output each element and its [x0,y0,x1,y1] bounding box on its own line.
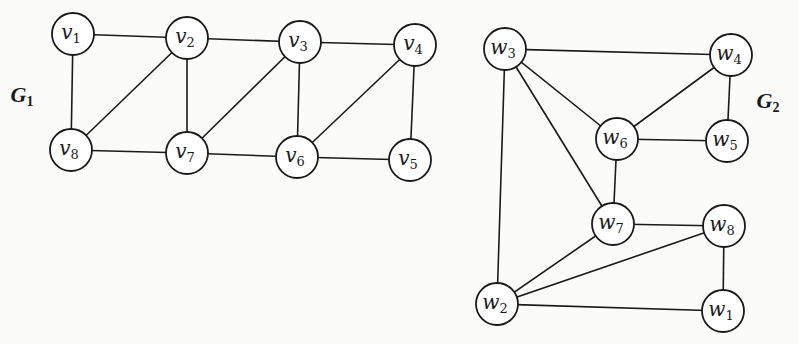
node-label-base: v [61,20,73,44]
node-label-subscript: 6 [619,136,627,151]
node-label-subscript: 8 [726,223,734,238]
node-v2: v2 [166,17,208,59]
node-label-base: v [175,139,187,163]
node-label-subscript: 5 [729,138,737,153]
node-label-base: w [490,35,507,59]
node-label-subscript: 7 [187,150,195,165]
node-label-base: v [398,146,410,170]
graph-diagram-canvas: v1v2v3v4v5v6v7v8w1w2w3w4w5w6w7w8 G1G2 [0,0,798,344]
node-label-base: w [602,125,619,149]
node-v5: v5 [389,139,431,181]
node-label-base: v [285,143,297,167]
node-w6: w6 [596,118,638,160]
graph-label-base: G [757,88,773,113]
node-label-subscript: 6 [297,154,305,169]
node-label-subscript: 4 [415,42,423,57]
node-w8: w8 [703,205,745,247]
node-w3: w3 [484,28,526,70]
node-label-subscript: 7 [615,221,623,236]
node-label-subscript: 2 [499,301,507,316]
node-label-base: w [709,212,726,236]
node-label-base: w [716,41,733,65]
graph-label-base: G [11,82,27,107]
node-label-subscript: 2 [187,35,195,50]
node-label-base: v [288,28,300,52]
node-w4: w4 [710,34,752,76]
node-v4: v4 [394,24,436,66]
node-label-subscript: 3 [507,46,515,61]
node-label-subscript: 3 [300,39,308,54]
node-label-subscript: 1 [73,31,81,46]
graph-label-subscript: 2 [772,100,779,115]
node-v3: v3 [279,21,321,63]
node-label-subscript: 8 [71,147,79,162]
node-label-subscript: 1 [725,308,733,323]
node-label-base: w [598,210,615,234]
graph-label-subscript: 1 [26,94,33,109]
node-label-base: w [708,297,725,321]
node-v1: v1 [52,13,94,55]
node-w2: w2 [476,283,518,325]
node-v6: v6 [276,136,318,178]
node-label-base: v [403,31,415,55]
node-w5: w5 [706,120,748,162]
node-v8: v8 [50,129,92,171]
node-label-base: w [712,127,729,151]
node-w7: w7 [592,203,634,245]
node-label-base: v [59,136,71,160]
node-v7: v7 [166,132,208,174]
node-label-subscript: 5 [410,157,418,172]
node-label-base: w [482,290,499,314]
node-w1: w1 [702,290,744,332]
node-label-subscript: 4 [733,52,741,67]
node-label-base: v [175,24,187,48]
